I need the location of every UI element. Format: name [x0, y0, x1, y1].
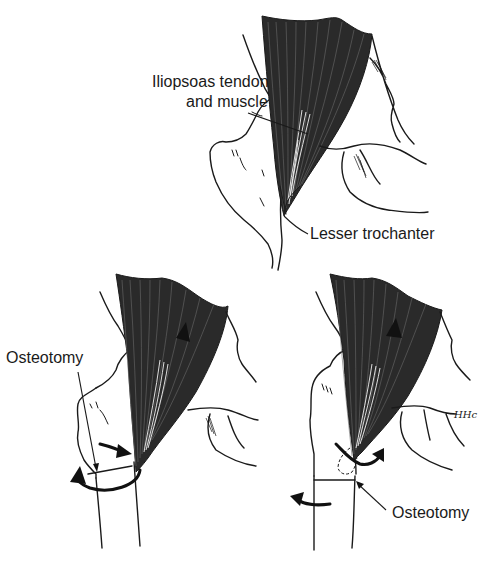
label-lesser-trochanter: Lesser trochanter	[310, 225, 435, 242]
br-artist-signature: HHc	[453, 409, 477, 420]
bl-femur-outline	[77, 388, 96, 478]
top-pelvis-right-outline	[370, 36, 414, 144]
br-femur-outline	[310, 350, 346, 476]
top-femur-head-outline	[210, 96, 275, 268]
br-iliopsoas-muscle	[330, 274, 442, 460]
br-shaft-rotation-arrowhead-icon	[290, 492, 304, 506]
bl-label-osteotomy: Osteotomy	[6, 349, 83, 366]
bl-rotation-arrowhead-icon	[70, 466, 86, 484]
bl-leader-arrowhead-icon	[93, 463, 99, 472]
bottom-right-panel: HHc Osteotomy	[290, 274, 477, 550]
top-obturator-outline	[320, 144, 428, 213]
bl-rotation-arrow-icon	[78, 470, 141, 490]
leader-lesser-trochanter	[284, 216, 308, 234]
bl-femur-marks	[90, 402, 108, 424]
br-leader-osteotomy	[358, 484, 386, 510]
bl-osteotomy-cut	[88, 466, 132, 474]
top-panel: Iliopsoas tendon and muscle Lesser troch…	[152, 16, 435, 270]
br-femur-marks	[322, 384, 332, 394]
bottom-left-panel: Osteotomy	[6, 274, 258, 548]
bl-medial-arrowhead-icon	[116, 444, 132, 458]
top-femur-marks	[232, 150, 264, 206]
top-iliopsoas-muscle	[262, 16, 372, 216]
label-iliopsoas-line2: and muscle	[186, 93, 268, 110]
br-label-osteotomy: Osteotomy	[392, 504, 469, 521]
label-iliopsoas-line1: Iliopsoas tendon	[152, 73, 269, 90]
br-femur-shaft-right	[352, 476, 355, 548]
iliopsoas-osteotomy-illustration: Iliopsoas tendon and muscle Lesser troch…	[0, 0, 482, 569]
